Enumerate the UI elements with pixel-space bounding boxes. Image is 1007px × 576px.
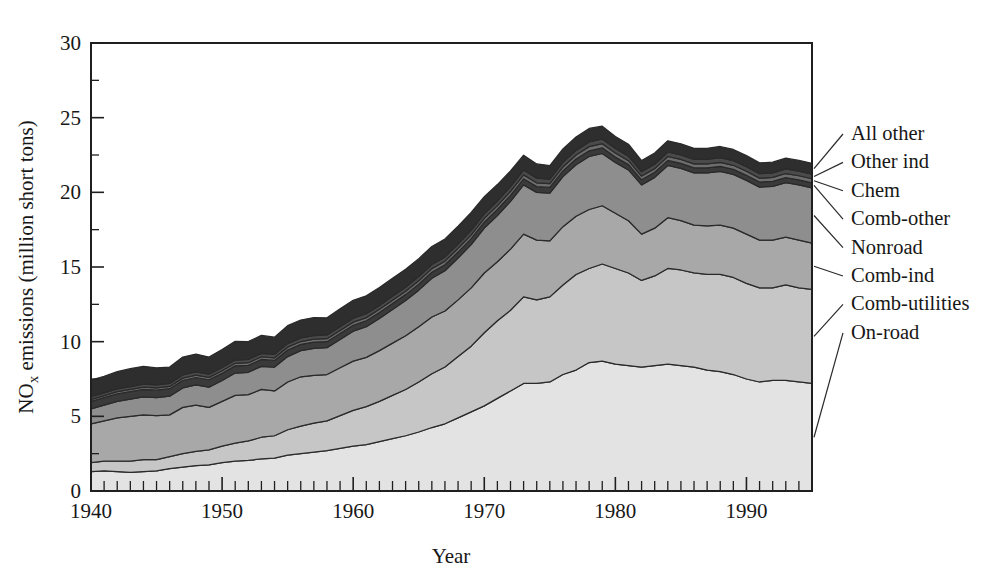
x-axis-title: Year: [432, 544, 471, 568]
y-tick-label: 15: [60, 255, 81, 279]
legend-label-comb-utilities: Comb-utilities: [851, 292, 969, 314]
y-tick-label: 10: [60, 330, 81, 354]
legend-label-other-ind: Other ind: [851, 150, 929, 172]
y-axis-title-suffix: emissions (million short tons): [14, 120, 38, 376]
x-tick-label: 1950: [201, 499, 243, 523]
y-tick-label: 20: [60, 180, 81, 204]
x-tick-label: 1940: [70, 499, 112, 523]
y-axis-title-prefix: NO: [14, 383, 38, 413]
y-tick-label: 30: [60, 31, 81, 55]
legend-label-comb-other: Comb-other: [851, 207, 950, 229]
x-tick-label: 1980: [594, 499, 636, 523]
legend-label-nonroad: Nonroad: [851, 236, 923, 258]
y-axis-title-text: NOx emissions (million short tons): [14, 120, 41, 413]
x-tick-label: 1960: [332, 499, 374, 523]
legend-label-on-road: On-road: [851, 321, 919, 343]
y-tick-label: 5: [71, 404, 82, 428]
x-tick-label: 1990: [725, 499, 767, 523]
x-tick-label: 1970: [463, 499, 505, 523]
y-tick-label: 25: [60, 106, 81, 130]
nox-emissions-stacked-area-chart: 051015202530 194019501960197019801990 Al…: [0, 0, 1007, 576]
legend-label-comb-ind: Comb-ind: [851, 264, 934, 286]
legend-label-all-other: All other: [851, 122, 925, 144]
y-axis-title: NOx emissions (million short tons): [14, 120, 41, 413]
figure-root: 051015202530 194019501960197019801990 Al…: [0, 0, 1007, 576]
legend-label-chem: Chem: [851, 179, 900, 201]
